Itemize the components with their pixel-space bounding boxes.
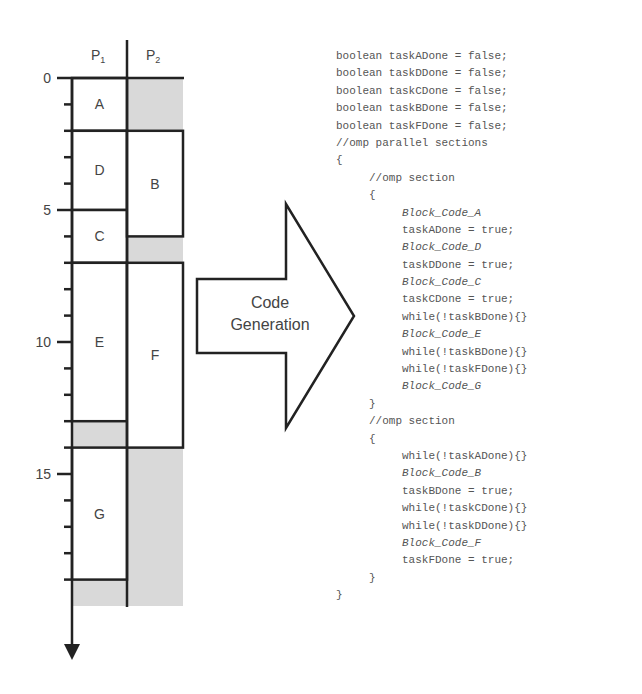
idle-region [127,78,183,131]
code-line: Block_Code_B [336,465,527,482]
axis-tick-label: 15 [35,466,51,482]
code-line: { [336,152,527,169]
idle-region [127,236,183,262]
axis-tick-label: 5 [43,202,51,218]
arrow-label-line2: Generation [230,316,309,333]
code-line: Block_Code_D [336,239,527,256]
code-line: Block_Code_A [336,205,527,222]
task-label: B [150,176,159,192]
axis-tick-label: 10 [35,334,51,350]
code-line: boolean taskDDone = false; [336,65,527,82]
processor-label-p2: P2 [146,47,160,65]
arrow-down-icon [64,644,80,660]
code-line: while(!taskCDone){} [336,500,527,517]
task-block-d: D [72,131,127,210]
task-label: A [95,96,105,112]
code-line: Block_Code_C [336,274,527,291]
code-line: while(!taskBDone){} [336,344,527,361]
code-line: boolean taskFDone = false; [336,118,527,135]
task-block-f: F [127,263,183,448]
code-line: boolean taskBDone = false; [336,100,527,117]
code-line: //omp section [336,170,527,187]
task-block-g: G [72,448,127,580]
code-line: while(!taskDDone){} [336,518,527,535]
code-line: } [336,570,527,587]
task-label: D [94,162,104,178]
task-block-c: C [72,210,127,263]
axis-tick-label: 0 [43,70,51,86]
code-line: while(!taskBDone){} [336,309,527,326]
code-line: //omp section [336,413,527,430]
code-line: taskADone = true; [336,222,527,239]
code-line: while(!taskADone){} [336,448,527,465]
arrow-label-line1: Code [251,294,289,311]
generated-code: boolean taskADone = false;boolean taskDD… [336,48,527,605]
code-generation-arrow: Code Generation [197,204,354,428]
idle-region [72,580,127,606]
code-line: { [336,431,527,448]
task-label: G [94,506,105,522]
code-line: taskBDone = true; [336,483,527,500]
task-label: F [151,347,160,363]
code-line: } [336,396,527,413]
code-line: taskCDone = true; [336,291,527,308]
code-line: while(!taskFDone){} [336,361,527,378]
task-block-e: E [72,263,127,421]
code-line: Block_Code_G [336,378,527,395]
task-label: C [94,228,104,244]
schedule-diagram: ADCEGBF 051015 P1 P2 Code Generation [0,0,642,694]
code-line: Block_Code_F [336,535,527,552]
task-block-a: A [72,78,127,131]
idle-region [72,421,127,447]
code-line: Block_Code_E [336,326,527,343]
code-line: //omp parallel sections [336,135,527,152]
idle-region [127,448,183,606]
code-line: boolean taskADone = false; [336,48,527,65]
processor-label-p1: P1 [91,47,105,65]
task-label: E [95,334,104,350]
code-line: { [336,187,527,204]
code-line: boolean taskCDone = false; [336,83,527,100]
code-line: } [336,587,527,604]
code-line: taskFDone = true; [336,552,527,569]
code-line: taskDDone = true; [336,257,527,274]
task-block-b: B [127,131,183,237]
